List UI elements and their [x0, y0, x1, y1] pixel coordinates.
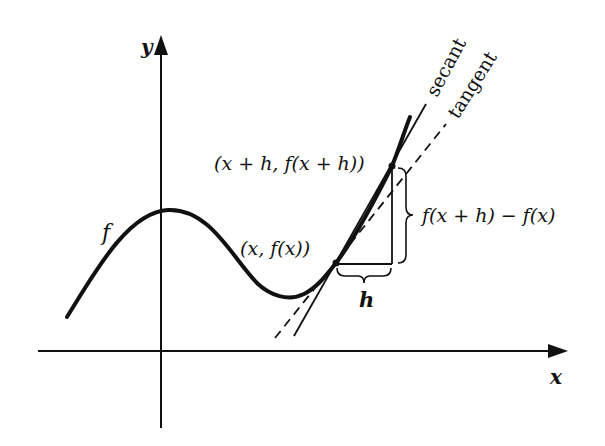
point-p-label: (x, f(x)): [240, 237, 310, 259]
y-axis-arrow-icon: [154, 35, 168, 55]
point-q-label: (x + h, f(x + h)): [214, 152, 365, 174]
secant-tangent-diagram: y x f (x, f(x)) (x + h, f(x + h)) h f(x …: [0, 0, 605, 446]
point-q: [389, 163, 396, 170]
function-label: f: [100, 220, 114, 245]
y-axis-label: y: [140, 35, 154, 59]
h-label: h: [359, 287, 374, 312]
point-p: [333, 260, 340, 267]
difference-label: f(x + h) − f(x): [420, 204, 555, 226]
x-axis-label: x: [549, 365, 563, 389]
x-axis: [38, 344, 568, 358]
x-axis-arrow-icon: [548, 344, 568, 358]
horizontal-brace: [337, 268, 391, 283]
y-axis: [154, 35, 168, 428]
